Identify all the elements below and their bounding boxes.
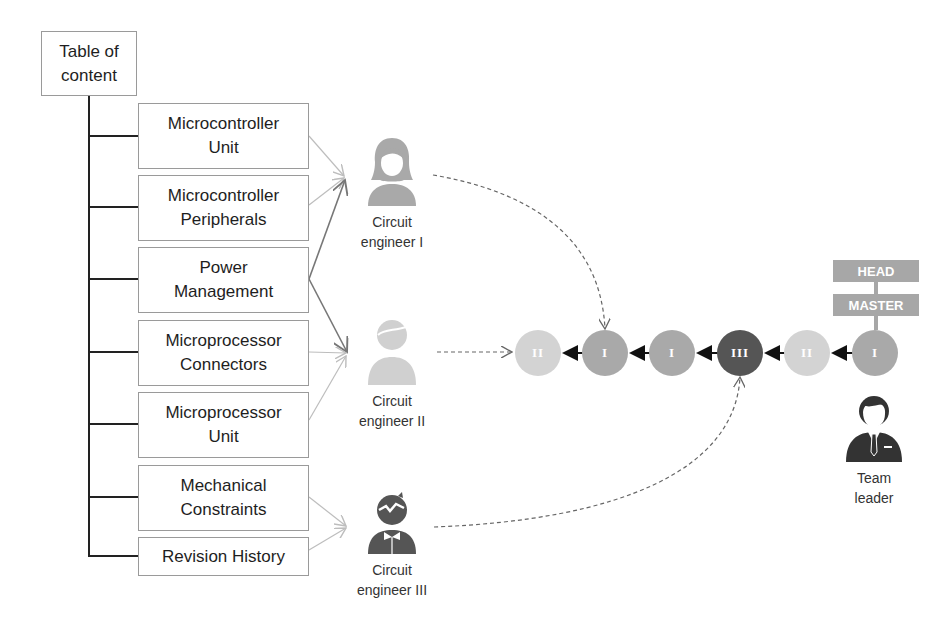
section-label: Microcontroller [168,184,279,208]
toc-root-label-line2: content [59,64,119,88]
section-label: Connectors [165,353,281,377]
person-circuit-engineer-1: Circuit engineer I [337,136,447,252]
toc-root-label-line1: Table of [59,40,119,64]
head-ref-tag: HEAD [833,260,919,282]
person-label: leader [819,488,929,508]
section-label: Unit [165,425,281,449]
commit-node: II [784,330,830,376]
commit-node: I [852,330,898,376]
section-microcontroller-peripherals: MicrocontrollerPeripherals [138,175,309,241]
person-label: engineer II [337,411,447,431]
master-branch-tag: MASTER [833,294,919,316]
section-label: Mechanical [181,474,267,498]
person-label: engineer I [337,232,447,252]
section-microprocessor-unit: MicroprocessorUnit [138,392,309,458]
section-label: Management [174,280,273,304]
person-team-leader: Team leader [819,392,929,508]
male-user-icon [364,315,420,385]
connector-lines [0,0,951,627]
commit-node: I [649,330,695,376]
section-label: Microprocessor [165,401,281,425]
person-label: engineer III [337,580,447,600]
toc-tree-lines [89,96,138,557]
section-revision-history: Revision History [138,537,309,576]
person-label: Team [819,468,929,488]
businessman-icon [844,392,904,462]
commit-node: I [582,330,628,376]
person-circuit-engineer-2: Circuit engineer II [337,315,447,431]
section-microprocessor-connectors: MicroprocessorConnectors [138,320,309,386]
person-label: Circuit [337,391,447,411]
section-power-management: PowerManagement [138,247,309,313]
section-microcontroller-unit: MicrocontrollerUnit [138,103,309,169]
person-label: Circuit [337,212,447,232]
section-label: Microprocessor [165,329,281,353]
section-label: Revision History [162,545,285,569]
section-label: Microcontroller [168,112,279,136]
person-circuit-engineer-3: Circuit engineer III [337,492,447,600]
commit-node: III [717,330,763,376]
male-user-spiky-hair-icon [364,492,420,554]
section-label: Unit [168,136,279,160]
section-mechanical-constraints: MechanicalConstraints [138,465,309,531]
female-user-icon [364,136,420,206]
toc-root: Table of content [41,31,137,96]
section-label: Power [174,256,273,280]
section-label: Constraints [181,498,267,522]
commit-node: II [515,330,561,376]
section-label: Peripherals [168,208,279,232]
person-label: Circuit [337,560,447,580]
